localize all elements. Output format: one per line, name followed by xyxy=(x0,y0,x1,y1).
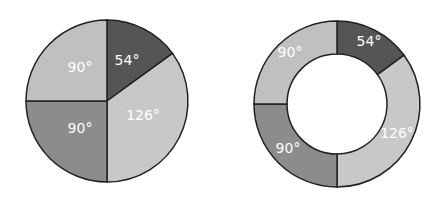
pie-label-90-top: 90° xyxy=(68,59,93,75)
donut-label-54: 54° xyxy=(357,33,382,49)
charts-canvas: 54° 126° 90° 90° 54° 126° 90° 90° xyxy=(0,0,445,207)
pie-slice-90-bottom xyxy=(26,101,107,182)
pie-label-90-bottom: 90° xyxy=(68,120,93,136)
pie-slice-90-top xyxy=(26,20,107,101)
donut-label-90-top: 90° xyxy=(278,44,303,60)
pie-label-54: 54° xyxy=(115,52,140,68)
donut-label-126: 126° xyxy=(380,125,414,141)
donut-slice-90-top xyxy=(254,21,337,104)
pie-label-126: 126° xyxy=(126,107,160,123)
pie-chart xyxy=(26,20,188,182)
donut-label-90-bottom: 90° xyxy=(276,140,301,156)
donut-slice-126 xyxy=(337,55,420,187)
